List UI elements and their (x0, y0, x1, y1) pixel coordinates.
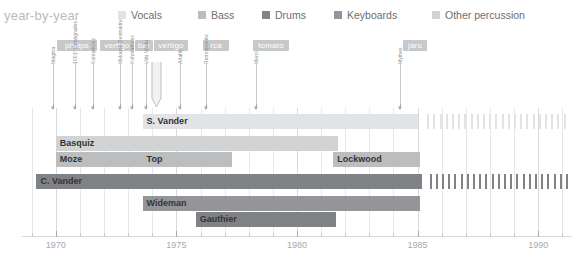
album-tick-4 (132, 62, 133, 108)
album-tick-7 (206, 62, 207, 108)
bar-dash-c-vander (566, 174, 568, 189)
axis-year-label-1980: 1980 (287, 240, 307, 250)
album-tick-0 (53, 62, 54, 108)
bar-dash-s-vander (446, 114, 448, 129)
bar-dash-c-vander (479, 174, 481, 189)
bar-dash-s-vander (433, 114, 435, 129)
bar-dash-c-vander (430, 174, 432, 189)
bar-dash-c-vander (492, 174, 494, 189)
bar-dash-c-vander (473, 174, 475, 189)
bar-dash-c-vander (485, 174, 487, 189)
axis-tick-1971 (80, 233, 81, 237)
axis-caret-0: ▾ (51, 104, 55, 111)
axis-tick-1981 (321, 233, 322, 237)
bar-label-moze: Moze (56, 152, 83, 167)
gridline-1986 (442, 108, 443, 236)
bar-dash-s-vander (440, 114, 442, 129)
bar-segment-basquiz-0[interactable] (56, 136, 338, 151)
bar-segment-c-vander-0[interactable] (36, 174, 422, 189)
axis-tick-1979 (273, 233, 274, 237)
bar-dash-s-vander (526, 114, 528, 129)
axis-tick-1969 (32, 233, 33, 237)
axis-tick-1984 (393, 233, 394, 237)
album-tick-1 (75, 62, 76, 108)
bar-dash-c-vander (442, 174, 444, 189)
bar-dash-c-vander (504, 174, 506, 189)
bar-dash-c-vander (560, 174, 562, 189)
bar-dash-s-vander (551, 114, 553, 129)
gridline-1969 (32, 108, 33, 236)
axis-tick-1974 (152, 233, 153, 237)
album-tick-9 (400, 62, 401, 108)
gridline-1971 (80, 108, 81, 236)
bar-dash-s-vander (502, 114, 504, 129)
bar-dash-s-vander (458, 114, 460, 129)
bar-dash-s-vander (557, 114, 559, 129)
axis-tick-1987 (466, 233, 467, 237)
bar-dash-c-vander (510, 174, 512, 189)
axis-tick-1988 (490, 233, 491, 237)
axis-year-label-1990: 1990 (528, 240, 548, 250)
axis-tick-1975 (176, 231, 177, 237)
axis-caret-3: ▾ (118, 104, 122, 111)
bar-dash-c-vander (498, 174, 500, 189)
axis-tick-1991 (562, 233, 563, 237)
axis-year-label-1970: 1970 (46, 240, 66, 250)
bar-dash-c-vander (523, 174, 525, 189)
axis-tick-1970 (56, 231, 57, 237)
album-title-5: Udu Wudu (143, 40, 149, 64)
record-label-tomato[interactable]: tomato (253, 40, 289, 51)
axis-tick-1985 (418, 231, 419, 237)
bar-dash-s-vander (533, 114, 535, 129)
album-tick-8 (256, 62, 257, 108)
axis-tick-1977 (225, 233, 226, 237)
bar-label-c-vander: C. Vander (36, 174, 82, 189)
bar-dash-s-vander (495, 114, 497, 129)
album-title-2: Kontarkosz (90, 38, 96, 64)
axis-caret-9: ▾ (398, 104, 402, 111)
axis-tick-1990 (538, 231, 539, 237)
bar-dash-s-vander (427, 114, 429, 129)
timeline-plot: philipsvertigobarvertigorcatomatojaroMag… (0, 0, 576, 258)
bar-dash-c-vander (529, 174, 531, 189)
axis-caret-7: ▾ (204, 104, 208, 111)
axis-tick-1986 (442, 233, 443, 237)
bar-label-s-vander: S. Vander (143, 114, 188, 129)
bar-dash-c-vander (535, 174, 537, 189)
bar-dash-c-vander (541, 174, 543, 189)
bar-dash-s-vander (564, 114, 566, 129)
album-title-1: 1001° Centigrades (72, 21, 78, 64)
bar-dash-c-vander (547, 174, 549, 189)
album-tick-3 (120, 62, 121, 108)
album-tick-5 (146, 62, 147, 108)
axis-tick-1980 (297, 231, 298, 237)
bar-dash-c-vander (436, 174, 438, 189)
bar-dash-c-vander (461, 174, 463, 189)
gridline-1985 (418, 108, 419, 236)
axis-caret-1: ▾ (73, 104, 77, 111)
axis-caret-6: ▾ (178, 104, 182, 111)
bar-label-gauthier: Gauthier (196, 212, 237, 227)
bar-dash-c-vander (516, 174, 518, 189)
gridline-1973 (128, 108, 129, 236)
release-pointer-icon (151, 62, 162, 112)
gridline-1972 (104, 108, 105, 236)
bar-dash-c-vander (454, 174, 456, 189)
axis-tick-1976 (201, 233, 202, 237)
axis-tick-1982 (345, 233, 346, 237)
axis-tick-1983 (369, 233, 370, 237)
axis-caret-5: ▾ (144, 104, 148, 111)
axis-tick-1989 (514, 233, 515, 237)
bar-dash-s-vander (514, 114, 516, 129)
album-tick-6 (180, 62, 181, 108)
record-label-jaro[interactable]: jaro (403, 40, 427, 51)
axis-year-label-1985: 1985 (408, 240, 428, 250)
bar-label-basquiz: Basquiz (56, 136, 95, 151)
bar-dash-s-vander (471, 114, 473, 129)
axis-caret-2: ▾ (91, 104, 95, 111)
bar-dash-s-vander (545, 114, 547, 129)
axis-tick-1973 (128, 233, 129, 237)
axis-tick-1972 (104, 233, 105, 237)
bar-label-lockwood: Lockwood (333, 152, 382, 167)
gridline-1970 (56, 108, 57, 236)
